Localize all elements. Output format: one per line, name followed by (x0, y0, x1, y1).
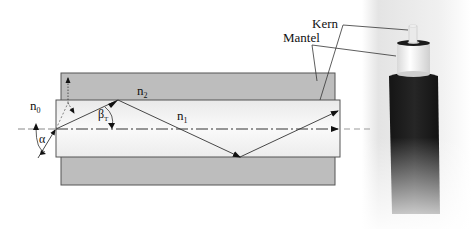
fiber-diagram: n0 n2 n1 α βT Kern Mantel (0, 0, 471, 229)
label-mantel: Mantel (283, 30, 320, 45)
fiber-photo (362, 0, 471, 229)
label-n0: n0 (30, 98, 41, 115)
label-alpha: α (39, 132, 46, 146)
label-kern: Kern (312, 16, 338, 31)
